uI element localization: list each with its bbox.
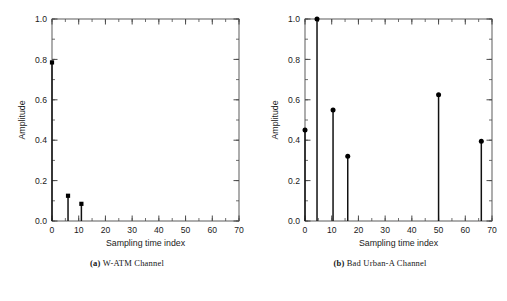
- stem-marker: [331, 107, 336, 112]
- x-tick-label: 60: [208, 225, 218, 235]
- y-axis-title: Amplitude: [17, 100, 27, 139]
- x-tick-label: 10: [74, 225, 84, 235]
- chart-b: 0102030405060700.00.20.40.60.81.0Samplin…: [253, 0, 507, 250]
- x-tick-label: 50: [181, 225, 191, 235]
- y-tick-label: 1.0: [35, 14, 47, 24]
- x-tick-label: 50: [434, 225, 444, 235]
- figure: 0102030405060700.00.20.40.60.81.0Samplin…: [0, 0, 507, 301]
- x-axis-title: Sampling time index: [359, 238, 439, 248]
- stem-marker: [66, 194, 70, 198]
- y-tick-label: 0.8: [288, 55, 300, 65]
- x-tick-label: 0: [303, 225, 308, 235]
- y-tick-label: 0.4: [35, 135, 47, 145]
- x-tick-label: 60: [461, 225, 471, 235]
- y-tick-label: 0.2: [288, 176, 300, 186]
- stem-marker: [50, 60, 54, 64]
- x-tick-label: 20: [101, 225, 111, 235]
- x-tick-label: 40: [154, 225, 164, 235]
- stem-marker: [479, 139, 484, 144]
- panel-a-caption: (a) W-ATM Channel: [0, 258, 254, 268]
- panel-a-caption-prefix: (a): [90, 258, 101, 268]
- y-tick-label: 0.6: [35, 95, 47, 105]
- stem-marker: [345, 154, 350, 159]
- panel-b: 0102030405060700.00.20.40.60.81.0Samplin…: [253, 0, 507, 301]
- stem-marker: [303, 128, 308, 133]
- x-tick-label: 30: [380, 225, 390, 235]
- y-tick-label: 0.6: [288, 95, 300, 105]
- y-tick-label: 0.8: [35, 55, 47, 65]
- stem-marker: [315, 17, 320, 22]
- chart-a: 0102030405060700.00.20.40.60.81.0Samplin…: [0, 0, 254, 250]
- x-tick-label: 20: [354, 225, 364, 235]
- plot-frame: [52, 19, 239, 221]
- panel-b-caption-prefix: (b): [333, 258, 344, 268]
- y-tick-label: 1.0: [288, 14, 300, 24]
- panel-b-caption-text: Bad Urban-A Channel: [347, 258, 427, 268]
- stem-marker: [79, 202, 83, 206]
- panel-a-caption-text: W-ATM Channel: [103, 258, 164, 268]
- x-tick-label: 70: [234, 225, 244, 235]
- x-tick-label: 10: [327, 225, 337, 235]
- x-tick-label: 0: [50, 225, 55, 235]
- y-tick-label: 0.2: [35, 176, 47, 186]
- x-tick-label: 70: [487, 225, 497, 235]
- y-tick-label: 0.0: [288, 216, 300, 226]
- x-axis-title: Sampling time index: [106, 238, 186, 248]
- stem-series: [303, 17, 484, 222]
- y-tick-label: 0.4: [288, 135, 300, 145]
- y-axis-title: Amplitude: [270, 100, 280, 139]
- y-tick-label: 0.0: [35, 216, 47, 226]
- stem-marker: [436, 92, 441, 97]
- x-tick-label: 40: [407, 225, 417, 235]
- panel-a: 0102030405060700.00.20.40.60.81.0Samplin…: [0, 0, 254, 301]
- x-tick-label: 30: [127, 225, 137, 235]
- panel-b-caption: (b) Bad Urban-A Channel: [253, 258, 507, 268]
